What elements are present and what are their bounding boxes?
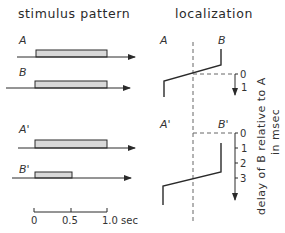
trace-b-label: B — [19, 66, 27, 79]
upper-a-label: A — [159, 34, 168, 47]
delay-axis-label-line2: in msec — [269, 109, 282, 155]
delay-axis-label-line1: delay of B relative to A — [255, 77, 268, 215]
trace-b-bar — [35, 81, 107, 88]
stimulus-pattern-title: stimulus pattern — [18, 6, 130, 21]
lower-b-prime-label: B' — [218, 118, 229, 131]
trace-a-prime-bar — [35, 140, 107, 148]
trace-b-prime-bar — [35, 172, 72, 178]
trace-a-bar — [36, 50, 107, 57]
upper-tick-1: 1 — [241, 82, 247, 93]
diagram-canvas: stimulus pattern A B A' B' 0 0.5 1.0 sec… — [0, 0, 285, 233]
lower-tick-2: 2 — [240, 158, 246, 169]
scale-tick-0-5: 0.5 — [62, 215, 78, 226]
trace-a-label: A — [18, 34, 27, 47]
trace-a-prime-label: A' — [18, 123, 30, 136]
lower-tick-3: 3 — [240, 173, 246, 184]
upper-tick-0: 0 — [240, 69, 246, 80]
lower-a-prime-label: A' — [159, 118, 171, 131]
lower-tick-0: 0 — [240, 128, 246, 139]
localization-title: localization — [175, 6, 253, 21]
scale-tick-1-0: 1.0 sec — [102, 215, 138, 226]
upper-b-label: B — [218, 34, 226, 47]
scale-tick-0: 0 — [31, 215, 37, 226]
time-scale — [34, 208, 107, 212]
lower-tick-1: 1 — [241, 143, 247, 154]
trace-b-prime-label: B' — [19, 163, 30, 176]
delay-axis-label-unit: in msec — [269, 109, 282, 155]
delay-axis-label: delay of B relative to A — [255, 77, 268, 215]
lower-localization-curve — [163, 143, 221, 205]
